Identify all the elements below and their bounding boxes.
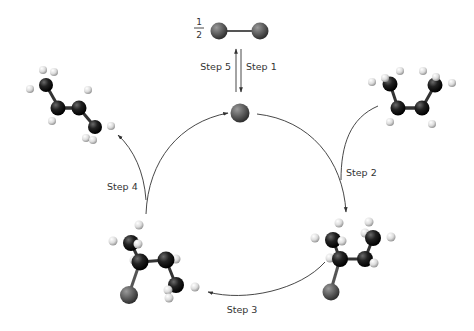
carbon-atom: [72, 101, 87, 116]
halogen-atom: [211, 23, 228, 40]
step2-label: Step 2: [346, 167, 377, 178]
carbon-atom: [332, 251, 348, 267]
fraction-denominator: 2: [196, 30, 202, 40]
intermediate-left-molecule: [109, 221, 200, 305]
catalytic-cycle-diagram: 1 2 Step 5 Step 1 Step 2 Step 3 Step 4: [0, 0, 474, 331]
carbon-atom: [39, 78, 53, 92]
carbon-atom: [158, 252, 175, 269]
halogen-atom: [252, 23, 269, 40]
carbon-atom: [415, 101, 430, 116]
intermediate-right-molecule: [311, 218, 396, 301]
carbon-atom: [88, 120, 102, 134]
step3-label: Step 3: [227, 304, 258, 315]
cycle-arc-bottom: [208, 262, 325, 295]
step1-label: Step 1: [246, 61, 277, 72]
halogen-atom: [323, 284, 340, 301]
halogen-atom: [120, 286, 138, 304]
alkene-in-molecule: [368, 67, 456, 128]
carbon-atom: [132, 254, 149, 271]
cycle-arc-left: [146, 113, 228, 214]
fraction-numerator: 1: [196, 17, 202, 27]
carbon-atom: [51, 101, 66, 116]
alkene-out-molecule: [26, 66, 115, 144]
step4-label: Step 4: [107, 181, 138, 192]
diatomic-molecule: 1 2: [194, 17, 269, 40]
carbon-atom: [391, 101, 406, 116]
cycle-arc-right: [257, 114, 346, 212]
catalyst-atom: [231, 104, 250, 123]
carbon-atom: [365, 230, 381, 246]
step5-label: Step 5: [200, 61, 231, 72]
